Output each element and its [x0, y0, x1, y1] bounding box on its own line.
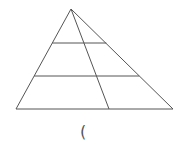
triangle-diagram: [0, 0, 190, 152]
caption-label: (: [80, 122, 86, 141]
outer-triangle: [16, 9, 173, 109]
cevian-line: [71, 9, 109, 109]
